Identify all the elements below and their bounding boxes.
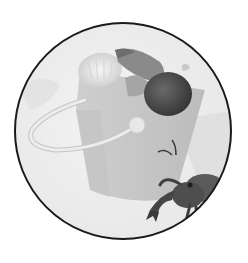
illustration-content	[0, 0, 248, 263]
handle-rivet	[129, 117, 145, 133]
crab-eye	[188, 183, 193, 188]
shell-dark	[144, 72, 192, 116]
beach-illustration	[0, 0, 248, 263]
